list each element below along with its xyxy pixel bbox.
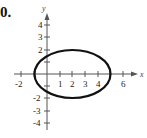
x-tick-label: 4 (96, 79, 101, 89)
x-tick-label: 6 (121, 79, 126, 89)
x-tick-label: -2 (15, 79, 23, 89)
y-axis-arrow-icon (45, 13, 50, 20)
x-axis-arrow-icon (131, 72, 138, 77)
coordinate-plane: x y -2 1 2 3 4 6 4 3 2 -2 (0, 0, 147, 138)
y-tick-label: -2 (33, 93, 41, 103)
x-tick-label: 2 (70, 79, 75, 89)
y-tick-label: 2 (38, 45, 43, 55)
x-tick-label: 3 (83, 79, 88, 89)
y-tick-label: -4 (33, 118, 41, 128)
x-axis-name: x (139, 70, 144, 79)
y-tick-label: 4 (38, 20, 43, 30)
y-tick-label: -3 (33, 106, 41, 116)
y-tick-label: 3 (38, 32, 43, 42)
x-tick-label: 1 (58, 79, 63, 89)
y-axis-name: y (41, 4, 46, 13)
